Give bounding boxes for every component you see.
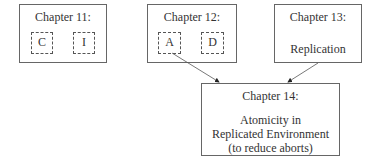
arrow-ch13-to-ch14 [288,63,318,82]
edges [0,0,378,162]
arrow-a-to-ch14 [172,53,219,82]
